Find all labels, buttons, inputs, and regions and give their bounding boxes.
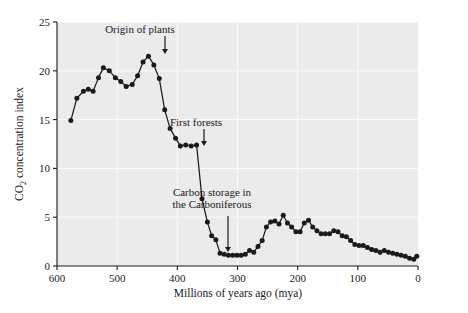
data-point-marker — [348, 238, 353, 243]
data-point-marker — [352, 242, 357, 247]
data-point-marker — [302, 221, 307, 226]
data-point-marker — [289, 224, 294, 229]
data-point-marker — [340, 233, 345, 238]
data-point-marker — [306, 218, 311, 223]
y-tick-label: 15 — [39, 114, 51, 126]
data-point-marker — [157, 76, 162, 81]
data-point-marker — [277, 222, 282, 227]
data-point-marker — [251, 250, 256, 255]
y-axis-title-main: CO — [13, 185, 25, 201]
data-point-marker — [239, 253, 244, 258]
data-point-marker — [414, 254, 419, 259]
data-point-marker — [151, 62, 156, 67]
data-point-marker — [407, 256, 412, 261]
data-point-marker — [344, 234, 349, 239]
data-point-marker — [141, 60, 146, 65]
y-tick-label: 10 — [39, 162, 51, 174]
annotation-label-first-forests: First forests — [170, 116, 222, 128]
data-point-marker — [218, 251, 223, 256]
data-point-marker — [222, 252, 227, 257]
x-tick-label: 200 — [289, 272, 306, 284]
x-axis-ticks: 6005004003002001000 — [49, 266, 422, 284]
data-point-marker — [101, 65, 106, 70]
annotation-label-carbon-storage: Carbon storage in — [173, 186, 252, 198]
data-point-marker — [74, 96, 79, 101]
data-point-marker — [178, 143, 183, 148]
y-axis-title: CO2 concentration index — [13, 87, 28, 201]
svg-text:CO2 concentration index: CO2 concentration index — [13, 87, 28, 201]
annotation-label-carbon-storage: the Carboniferous — [172, 198, 251, 210]
data-point-marker — [310, 224, 315, 229]
x-tick-label: 0 — [415, 272, 421, 284]
data-point-marker — [124, 84, 129, 89]
data-point-marker — [194, 142, 199, 147]
data-point-marker — [243, 252, 248, 257]
y-tick-label: 5 — [45, 211, 51, 223]
data-point-marker — [213, 237, 218, 242]
data-point-marker — [369, 247, 374, 252]
x-tick-label: 500 — [109, 272, 126, 284]
x-tick-label: 100 — [350, 272, 367, 284]
data-point-marker — [113, 75, 118, 80]
chart-canvas: 0510152025 6005004003002001000 Origin of… — [0, 0, 468, 313]
data-point-marker — [390, 251, 395, 256]
y-tick-label: 25 — [39, 16, 51, 28]
data-point-marker — [146, 54, 151, 59]
x-tick-label: 600 — [49, 272, 66, 284]
co2-concentration-chart-figure: 0510152025 6005004003002001000 Origin of… — [0, 0, 468, 313]
data-point-marker — [298, 229, 303, 234]
x-tick-label: 300 — [229, 272, 246, 284]
data-point-marker — [255, 244, 260, 249]
data-point-marker — [81, 89, 86, 94]
annotation-label-origin-of-plants: Origin of plants — [105, 23, 175, 35]
data-point-marker — [264, 224, 269, 229]
y-axis-title-rest: concentration index — [13, 87, 25, 181]
data-point-marker — [183, 142, 188, 147]
data-point-marker — [285, 221, 290, 226]
data-point-marker — [335, 229, 340, 234]
data-point-marker — [162, 107, 167, 112]
data-point-marker — [107, 68, 112, 73]
y-axis-ticks: 0510152025 — [39, 16, 57, 272]
x-axis-title: Millions of years ago (mya) — [174, 287, 303, 300]
y-tick-label: 0 — [45, 260, 51, 272]
data-point-marker — [135, 73, 140, 78]
data-point-marker — [68, 118, 73, 123]
data-point-marker — [86, 87, 91, 92]
data-point-marker — [96, 75, 101, 80]
data-point-marker — [209, 233, 214, 238]
data-point-marker — [173, 136, 178, 141]
data-point-marker — [189, 143, 194, 148]
data-point-marker — [394, 252, 399, 257]
y-tick-label: 20 — [39, 65, 51, 77]
data-point-marker — [314, 228, 319, 233]
data-point-marker — [281, 213, 286, 218]
data-point-marker — [130, 82, 135, 87]
data-point-marker — [272, 219, 277, 224]
data-point-marker — [399, 253, 404, 258]
data-point-marker — [260, 238, 265, 243]
data-point-marker — [91, 89, 96, 94]
x-tick-label: 400 — [169, 272, 186, 284]
data-point-marker — [327, 231, 332, 236]
data-point-marker — [118, 79, 123, 84]
data-point-marker — [331, 228, 336, 233]
data-point-marker — [205, 220, 210, 225]
data-point-marker — [268, 220, 273, 225]
data-point-marker — [386, 250, 391, 255]
